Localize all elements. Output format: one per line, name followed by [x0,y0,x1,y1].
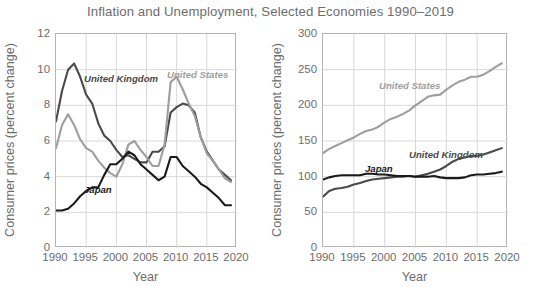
y-axis-label-right: Consumer prices (percent change) [270,33,284,247]
x-tick-label: 1995 [72,251,97,263]
y-tick-label: 150 [286,134,317,146]
gridlines [56,34,237,248]
x-tick-label: 1990 [309,251,334,263]
x-axis-label-right: Year [322,270,507,284]
line-united-states [323,63,502,153]
chart-panel-left: Consumer prices (percent change) 0246810… [0,0,268,287]
y-tick-label: 4 [19,170,50,182]
series-label-united-states-left: United States [167,69,228,80]
x-tick-label: 2000 [371,251,396,263]
line-japan [56,152,231,211]
series-label-united-kingdom-right: United Kingdom [409,149,483,160]
chart-lines-left [56,34,237,248]
y-tick-label: 200 [286,98,317,110]
series-label-united-states-right: United States [379,80,440,91]
y-tick-label: 8 [19,98,50,110]
x-tick-label: 2005 [133,251,158,263]
x-tick-label: 1995 [340,251,365,263]
x-tick-label: 2010 [163,251,188,263]
x-tick-label: 2000 [103,251,128,263]
y-axis-label-left: Consumer prices (percent change) [3,33,17,247]
y-tick-label: 300 [286,27,317,39]
y-tick-label: 10 [19,63,50,75]
plot-area-right [322,33,507,247]
x-tick-label: 2020 [494,251,519,263]
x-tick-label: 1990 [42,251,67,263]
gridlines [323,34,508,248]
x-tick-label: 2010 [433,251,458,263]
x-tick-label: 2005 [402,251,427,263]
plot-area-left [55,33,236,247]
x-axis-label-left: Year [55,270,236,284]
chart-panel-right: Consumer prices (percent change) 0501001… [268,0,541,287]
x-tick-label: 2015 [193,251,218,263]
series-label-japan-right: Japan [365,163,393,174]
y-tick-label: 100 [286,170,317,182]
series-label-japan-left: Japan [84,184,112,195]
chart-lines-right [323,34,508,248]
y-tick-label: 6 [19,134,50,146]
y-tick-label: 50 [286,205,317,217]
x-tick-label: 2020 [223,251,248,263]
y-tick-label: 250 [286,63,317,75]
line-japan [323,172,502,180]
series-label-united-kingdom-left: United Kingdom [84,73,158,84]
y-tick-label: 2 [19,205,50,217]
y-tick-label: 12 [19,27,50,39]
x-tick-label: 2015 [463,251,488,263]
